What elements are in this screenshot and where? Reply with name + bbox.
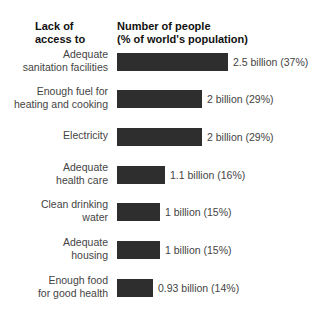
value-label: 0.93 billion (14%) xyxy=(158,282,239,295)
value-label: 1.1 billion (16%) xyxy=(170,169,245,182)
value-column-header: Number of people (% of world's populatio… xyxy=(117,20,248,46)
category-label-line2: Electricity xyxy=(0,129,108,142)
category-label: Electricity xyxy=(0,129,108,142)
value-label: 2.5 billion (37%) xyxy=(233,56,308,69)
data-bar xyxy=(117,90,202,108)
category-label-line1: Clean drinking xyxy=(0,198,108,211)
category-label-line1: Adequate xyxy=(0,236,108,249)
data-bar xyxy=(117,53,228,71)
header-left-line1: Lack of xyxy=(35,20,85,33)
chart-row: Clean drinkingwater1 billion (15%) xyxy=(0,198,315,228)
chart-row: Adequatehousing1 billion (15%) xyxy=(0,236,315,266)
category-label-line1: Adequate xyxy=(0,161,108,174)
category-label-line2: housing xyxy=(0,249,108,262)
data-bar xyxy=(117,279,153,297)
chart-row: Enough fuel forheating and cooking2 bill… xyxy=(0,85,315,115)
data-bar xyxy=(117,128,202,146)
category-label-line2: health care xyxy=(0,174,108,187)
category-label: Adequatehousing xyxy=(0,236,108,262)
chart-row: Electricity2 billion (29%) xyxy=(0,123,315,153)
category-label-line1: Adequate xyxy=(0,48,108,61)
chart-row: Enough foodfor good health0.93 billion (… xyxy=(0,274,315,304)
category-label: Adequatehealth care xyxy=(0,161,108,187)
category-label-line2: heating and cooking xyxy=(0,98,108,111)
header-right-line1: Number of people xyxy=(117,20,248,33)
chart-row: Adequatesanitation facilities2.5 billion… xyxy=(0,48,315,78)
category-label: Enough foodfor good health xyxy=(0,274,108,300)
data-bar xyxy=(117,241,160,259)
value-label: 2 billion (29%) xyxy=(207,131,274,144)
data-bar xyxy=(117,203,160,221)
category-label: Adequatesanitation facilities xyxy=(0,48,108,74)
category-label-line1: Enough food xyxy=(0,274,108,287)
value-label: 1 billion (15%) xyxy=(165,206,232,219)
value-label: 2 billion (29%) xyxy=(207,93,274,106)
category-label: Enough fuel forheating and cooking xyxy=(0,85,108,111)
chart-row: Adequatehealth care1.1 billion (16%) xyxy=(0,161,315,191)
category-label-line2: sanitation facilities xyxy=(0,61,108,74)
category-label-line2: for good health xyxy=(0,287,108,300)
value-label: 1 billion (15%) xyxy=(165,244,232,257)
category-column-header: Lack of access to xyxy=(35,20,85,46)
header-right-line2: (% of world's population) xyxy=(117,33,248,46)
category-label: Clean drinkingwater xyxy=(0,198,108,224)
category-label-line1: Enough fuel for xyxy=(0,85,108,98)
header-left-line2: access to xyxy=(35,33,85,46)
category-label-line2: water xyxy=(0,211,108,224)
data-bar xyxy=(117,166,165,184)
